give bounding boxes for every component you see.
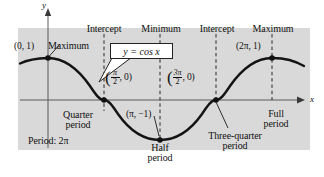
label-period-note: Period: 2π bbox=[28, 136, 68, 146]
y-axis-label: y bbox=[42, 1, 46, 10]
label-quarter-period-line2: period bbox=[63, 120, 93, 130]
top-label-intercept-three-quarter: Intercept bbox=[200, 24, 235, 34]
label-half-period: Half period bbox=[148, 143, 173, 163]
fraction-numerator: 3π bbox=[173, 69, 183, 77]
point-three-quarter-intercept bbox=[213, 97, 219, 103]
label-origin-max-caption: Maximum bbox=[48, 41, 89, 51]
label-three-quarter-intercept-coord: ( 3π 2 , 0) bbox=[167, 69, 195, 87]
fraction-denominator: 2 bbox=[112, 78, 118, 86]
label-three-quarter-period-line2: period bbox=[208, 141, 262, 151]
label-origin-max-coord: (0, 1) bbox=[14, 42, 34, 52]
x-axis-label: x bbox=[310, 95, 314, 104]
top-label-minimum: Minimum bbox=[141, 24, 180, 34]
label-full-period: Full period bbox=[264, 109, 289, 129]
fraction-pi-over-2: π 2 bbox=[111, 69, 120, 86]
point-full-max bbox=[269, 55, 275, 61]
leader-three-quarter-period bbox=[216, 102, 228, 128]
label-quarter-intercept-coord: ( π 2 , 0) bbox=[105, 69, 132, 87]
point-quarter-intercept bbox=[101, 97, 107, 103]
label-half-period-line2: period bbox=[148, 153, 173, 163]
leader-pi-minus-one bbox=[154, 116, 159, 136]
label-three-quarter-coord-tail: , 0) bbox=[182, 73, 194, 83]
equation-text: y = cos x bbox=[123, 46, 159, 57]
x-axis bbox=[20, 97, 305, 104]
top-label-maximum: Maximum bbox=[253, 24, 294, 34]
equation-callout-box: y = cos x bbox=[110, 43, 173, 59]
fraction-3pi-over-2: 3π 2 bbox=[173, 69, 183, 86]
label-minimum-coord: (π, −1) bbox=[126, 110, 151, 120]
y-axis bbox=[45, 8, 51, 148]
label-quarter-coord-tail: , 0) bbox=[120, 73, 132, 83]
cosine-graph-figure: y = cos x Intercept Minimum Intercept Ma… bbox=[0, 0, 324, 177]
label-three-quarter-period: Three-quarter period bbox=[208, 131, 262, 151]
fraction-numerator: π bbox=[112, 69, 118, 77]
label-full-period-line2: period bbox=[264, 119, 289, 129]
label-quarter-period: Quarter period bbox=[63, 110, 93, 130]
fraction-denominator: 2 bbox=[175, 78, 181, 86]
top-label-intercept-quarter: Intercept bbox=[87, 24, 122, 34]
label-full-period-coord: (2π, 1) bbox=[236, 42, 261, 52]
